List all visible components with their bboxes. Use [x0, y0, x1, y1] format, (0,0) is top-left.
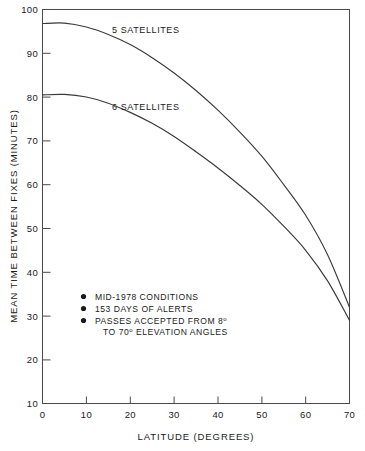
y-tick-label-80: 80	[27, 92, 38, 103]
bullet-point-icon	[81, 318, 86, 323]
y-tick-label-20: 20	[27, 354, 38, 365]
y-tick-label-30: 30	[27, 311, 38, 322]
y-tick-label-10: 10	[27, 398, 38, 409]
note-line-1: MID-1978 CONDITIONS	[95, 292, 199, 302]
y-tick-label-70: 70	[27, 135, 38, 146]
bullet-point-icon	[81, 294, 86, 299]
note-line-4-prefix: TO 70	[103, 327, 129, 337]
x-tick-label-10: 10	[81, 409, 92, 420]
annotation-note-block: MID-1978 CONDITIONS 153 DAYS OF ALERTS P…	[81, 292, 228, 337]
x-tick-label-20: 20	[125, 409, 136, 420]
y-tick-label-50: 50	[27, 223, 38, 234]
note-line-3: PASSES ACCEPTED FROM 8o	[95, 316, 227, 327]
y-tick-label-90: 90	[27, 48, 38, 59]
data-curves	[43, 23, 350, 320]
x-tick-label-60: 60	[300, 409, 311, 420]
note-line-4: TO 70o ELEVATION ANGLES	[103, 327, 228, 338]
x-axis-title: LATITUDE (DEGREES)	[138, 431, 255, 442]
bullet-point-icon	[81, 306, 86, 311]
y-tick-label-100: 100	[21, 4, 38, 15]
x-axis-ticks	[43, 397, 350, 404]
series-label-5-satellites: 5 SATELLITES	[112, 25, 180, 35]
note-line-2: 153 DAYS OF ALERTS	[95, 304, 193, 314]
curve-5-satellites	[43, 23, 350, 307]
x-tick-label-30: 30	[169, 409, 180, 420]
y-axis-title: MEAN TIME BETWEEN FIXES (MINUTES)	[8, 109, 19, 323]
x-tick-label-0: 0	[40, 409, 46, 420]
x-tick-label-40: 40	[212, 409, 223, 420]
chart-figure: 100 90 80 70 60 50 40 30 20 10 0 10 20	[0, 0, 365, 451]
x-tick-label-50: 50	[256, 409, 267, 420]
y-axis-tick-labels: 100 90 80 70 60 50 40 30 20 10	[21, 4, 38, 409]
y-tick-label-60: 60	[27, 179, 38, 190]
note-line-4-suffix: ELEVATION ANGLES	[133, 327, 228, 337]
x-tick-label-70: 70	[344, 409, 355, 420]
y-axis-ticks	[43, 10, 51, 404]
y-tick-label-40: 40	[27, 267, 38, 278]
x-axis-tick-labels: 0 10 20 30 40 50 60 70	[40, 409, 355, 420]
plot-frame	[43, 10, 350, 404]
degree-symbol-icon: o	[223, 316, 227, 322]
note-line-3-text: PASSES ACCEPTED FROM 8	[95, 316, 223, 326]
curve-6-satellites	[43, 94, 350, 320]
chart-canvas: 100 90 80 70 60 50 40 30 20 10 0 10 20	[0, 0, 365, 451]
series-label-6-satellites: 6 SATELLITES	[112, 102, 180, 112]
